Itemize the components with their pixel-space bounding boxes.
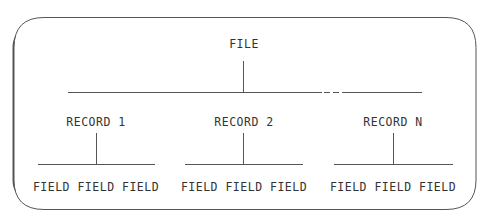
record-1-fields: FIELD FIELD FIELD — [33, 180, 159, 194]
record-n-fields: FIELD FIELD FIELD — [330, 180, 456, 194]
record-n-label: RECORD N — [363, 115, 422, 129]
record-2-label: RECORD 2 — [214, 115, 273, 129]
record-2-fields: FIELD FIELD FIELD — [181, 180, 307, 194]
record-1-label: RECORD 1 — [66, 115, 125, 129]
file-label: FILE — [229, 37, 259, 51]
diagram-canvas: FILE RECORD 1 FIELD FIELD FIELD RECORD 2… — [0, 0, 489, 218]
